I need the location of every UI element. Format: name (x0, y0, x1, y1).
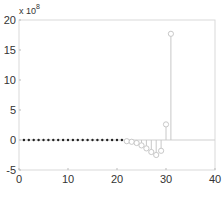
y-tick-label: 20 (4, 14, 16, 26)
stem-marker-filled (82, 139, 84, 141)
stem-marker-filled (111, 139, 113, 141)
y-multiplier-exponent: 8 (36, 3, 40, 10)
plot-area (23, 31, 174, 157)
stem-marker-open (124, 139, 129, 144)
stem-marker-filled (91, 139, 93, 141)
stem-marker-open (144, 146, 149, 151)
x-tick-label: 40 (209, 173, 221, 185)
x-tick-label: 0 (16, 173, 22, 185)
tick-labels: 010203040-505101520 (4, 14, 221, 185)
stem-marker-filled (86, 139, 88, 141)
stem-marker-open (159, 148, 164, 153)
x-tick-label: 10 (62, 173, 74, 185)
stem-marker-open (134, 140, 139, 145)
stem-marker-open (154, 152, 159, 157)
stem-marker-filled (37, 139, 39, 141)
y-tick-label: 5 (10, 104, 16, 116)
stem-chart: 010203040-505101520 x 10 8 (0, 0, 223, 204)
y-tick-label: -5 (6, 164, 16, 176)
stem-marker-filled (101, 139, 103, 141)
x-tick-label: 20 (111, 173, 123, 185)
stem-marker-filled (96, 139, 98, 141)
stem-marker-filled (42, 139, 44, 141)
y-tick-label: 0 (10, 134, 16, 146)
x-tick-label: 30 (160, 173, 172, 185)
stem-marker-filled (57, 139, 59, 141)
stem-marker-filled (33, 139, 35, 141)
stem-marker-filled (72, 139, 74, 141)
stem-marker-open (163, 122, 168, 127)
stem-marker-open (168, 31, 173, 36)
stem-marker-filled (23, 139, 25, 141)
stem-marker-open (139, 143, 144, 148)
stem-marker-filled (106, 139, 108, 141)
y-multiplier-label: x 10 (19, 6, 36, 16)
stem-marker-open (149, 149, 154, 154)
stem-marker-filled (47, 139, 49, 141)
stem-marker-filled (67, 139, 69, 141)
y-tick-label: 10 (4, 74, 16, 86)
stem-marker-filled (52, 139, 54, 141)
stem-marker-filled (77, 139, 79, 141)
stem-marker-filled (116, 139, 118, 141)
stem-marker-filled (28, 139, 30, 141)
axes-box (19, 20, 215, 170)
y-tick-label: 15 (4, 44, 16, 56)
axes (19, 20, 215, 170)
stem-marker-filled (121, 139, 123, 141)
stem-marker-filled (62, 139, 64, 141)
stem-marker-open (129, 139, 134, 144)
